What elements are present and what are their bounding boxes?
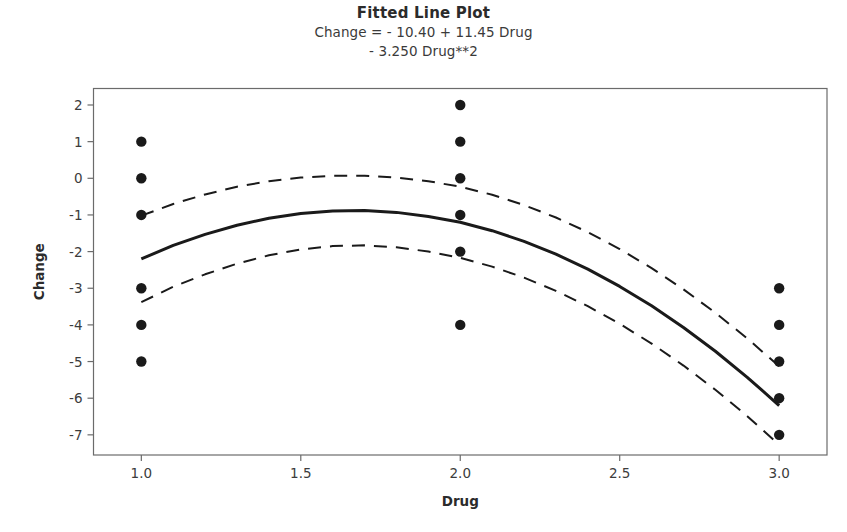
fitted-line-plot: Fitted Line Plot Change = - 10.40 + 11.4… <box>0 0 847 532</box>
data-point <box>136 173 146 183</box>
x-tick-label: 2.5 <box>609 465 630 481</box>
data-point <box>136 320 146 330</box>
y-tick-label: -2 <box>69 244 82 260</box>
x-tick-label: 1.5 <box>290 465 311 481</box>
x-tick-label: 3.0 <box>768 465 789 481</box>
chart-svg: 1.01.52.02.53.0 210-1-2-3-4-5-6-7 Drug C… <box>0 0 847 532</box>
y-tick-label: -4 <box>69 317 82 333</box>
fitted-line <box>141 211 779 406</box>
data-point <box>774 393 784 403</box>
confidence-band-line <box>141 176 779 367</box>
data-point <box>136 210 146 220</box>
data-point <box>455 173 465 183</box>
data-point <box>136 283 146 293</box>
y-tick-label: -6 <box>69 390 82 406</box>
data-point <box>774 430 784 440</box>
data-point <box>774 320 784 330</box>
data-point <box>455 320 465 330</box>
y-axis-ticks: 210-1-2-3-4-5-6-7 <box>69 97 93 443</box>
y-tick-label: -7 <box>69 427 82 443</box>
x-axis-ticks: 1.01.52.02.53.0 <box>131 455 790 481</box>
data-point <box>136 136 146 146</box>
y-tick-label: -5 <box>69 354 82 370</box>
data-point <box>455 136 465 146</box>
data-points <box>136 100 784 440</box>
data-point <box>455 100 465 110</box>
x-tick-label: 1.0 <box>131 465 152 481</box>
data-point <box>455 210 465 220</box>
data-point <box>136 356 146 366</box>
data-point <box>774 283 784 293</box>
y-tick-label: -3 <box>69 280 82 296</box>
confidence-band-line <box>141 245 779 444</box>
data-point <box>455 246 465 256</box>
x-tick-label: 2.0 <box>450 465 471 481</box>
y-tick-label: 0 <box>74 170 83 186</box>
y-axis-title: Change <box>31 243 47 300</box>
data-point <box>774 356 784 366</box>
y-tick-label: 2 <box>74 97 83 113</box>
fitted-curve <box>141 211 779 406</box>
x-axis-title: Drug <box>442 493 479 509</box>
y-tick-label: 1 <box>74 134 83 150</box>
y-tick-label: -1 <box>69 207 82 223</box>
